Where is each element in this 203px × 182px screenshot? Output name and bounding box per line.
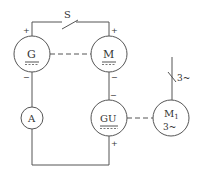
circuit-diagram: S G M A GU M1 3~ 3~ + − + − − + (0, 0, 203, 182)
motor-label: M (103, 48, 114, 61)
supply-label: 3~ (177, 73, 190, 83)
exciter-label: GU (100, 113, 116, 124)
m-top-polarity: + (111, 26, 118, 35)
switch-label: S (64, 9, 71, 20)
g-top-polarity: + (23, 26, 30, 35)
switch-blade (62, 20, 78, 29)
gu-top-polarity: − (110, 91, 117, 100)
generator-label: G (27, 48, 36, 61)
drive-motor-phase: 3~ (163, 122, 176, 132)
ammeter-label: A (27, 113, 36, 124)
g-bottom-polarity: − (23, 73, 30, 82)
drive-motor-label: M1 (164, 108, 179, 121)
m-bottom-polarity: − (111, 73, 118, 82)
gu-bottom-polarity: + (111, 139, 118, 148)
